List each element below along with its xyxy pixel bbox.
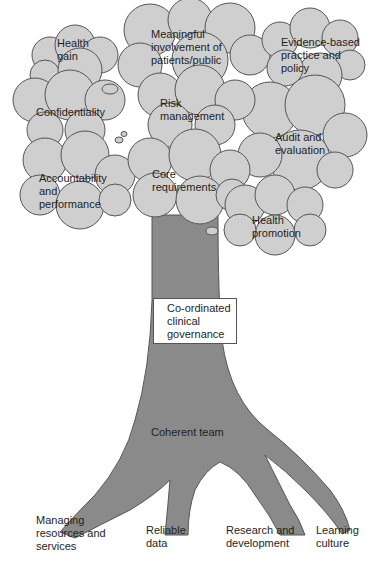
label-line: governance [167, 328, 236, 341]
label-line: services [36, 540, 106, 553]
tree-graphic [0, 0, 384, 561]
label-line: gain [57, 50, 89, 63]
label-line: Managing [36, 514, 106, 527]
label-confidentiality: Confidentiality [36, 106, 105, 119]
label-accountability: Accountability and performance [39, 172, 107, 211]
coordinated-clinical-governance-box: Co-ordinated clinical governance [153, 298, 237, 344]
label-line: requirements [152, 181, 216, 194]
label-audit-evaluation: Audit and evaluation [275, 131, 325, 157]
label-line: Health [57, 37, 89, 50]
label-line: policy [281, 62, 360, 75]
label-risk-management: Risk management [160, 97, 224, 123]
label-line: promotion [252, 227, 301, 240]
label-line: Confidentiality [36, 106, 105, 119]
label-line: evaluation [275, 144, 325, 157]
label-line: performance [39, 198, 107, 211]
label-line: clinical [167, 315, 236, 328]
clinical-governance-tree-diagram: Health gain Meaningful involvement of pa… [0, 0, 384, 561]
label-line: Meaningful [151, 28, 222, 41]
label-line: resources and [36, 527, 106, 540]
label-line: data [146, 537, 186, 550]
label-line: Health [252, 214, 301, 227]
label-line: development [226, 537, 295, 550]
tree-trunk [60, 215, 350, 538]
label-managing-resources: Managing resources and services [36, 514, 106, 553]
label-line: Research and [226, 524, 295, 537]
label-line: and [39, 185, 107, 198]
label-line: culture [316, 537, 359, 550]
label-research-development: Research and development [226, 524, 295, 550]
label-line: Risk [160, 97, 224, 110]
label-line: Co-ordinated [167, 302, 236, 315]
label-meaningful-involvement: Meaningful involvement of patients/publi… [151, 28, 222, 67]
label-reliable-data: Reliable data [146, 524, 186, 550]
label-line: Audit and [275, 131, 325, 144]
label-line: Accountability [39, 172, 107, 185]
label-core-requirements: Core requirements [152, 168, 216, 194]
label-line: Evidence-based [281, 36, 360, 49]
label-line: management [160, 110, 224, 123]
label-line: involvement of [151, 41, 222, 54]
thought-bubble [102, 84, 118, 94]
label-line: Reliable [146, 524, 186, 537]
label-health-gain: Health gain [57, 37, 89, 63]
label-learning-culture: Learning culture [316, 524, 359, 550]
label-evidence-based: Evidence-based practice and policy [281, 36, 360, 75]
label-line: Learning [316, 524, 359, 537]
label-coherent-team: Coherent team [151, 426, 224, 439]
label-line: Core [152, 168, 216, 181]
label-line: patients/public [151, 54, 222, 67]
label-health-promotion: Health promotion [252, 214, 301, 240]
label-line: practice and [281, 49, 360, 62]
